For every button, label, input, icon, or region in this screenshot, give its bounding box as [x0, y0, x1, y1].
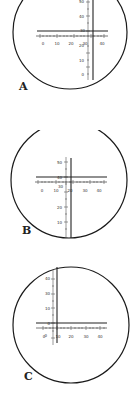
svg-text:20: 20	[57, 205, 63, 210]
svg-text:50: 50	[57, 160, 63, 165]
svg-text:0: 0	[81, 72, 84, 77]
reticle-a: 010203040 50403020100	[0, 0, 138, 130]
reticle-b: 010203040 5040302010	[0, 130, 138, 265]
svg-text:50: 50	[79, 0, 85, 4]
reticle-c: 010203040 40301000	[0, 265, 138, 397]
reticle-circle	[11, 130, 127, 238]
svg-text:40: 40	[97, 334, 103, 339]
svg-text:40: 40	[45, 276, 51, 281]
svg-text:30: 30	[58, 184, 64, 189]
svg-text:0: 0	[44, 333, 47, 338]
panel-label-b: B	[22, 224, 31, 237]
svg-text:0: 0	[41, 188, 44, 193]
svg-text:10: 10	[45, 306, 51, 311]
svg-text:30: 30	[45, 291, 51, 296]
svg-text:40: 40	[96, 188, 102, 193]
svg-text:20: 20	[79, 43, 85, 48]
svg-text:10: 10	[79, 58, 85, 63]
svg-text:40: 40	[79, 14, 85, 19]
svg-text:20: 20	[68, 41, 74, 46]
svg-text:20: 20	[68, 334, 74, 339]
reticle-circle	[13, 267, 129, 383]
svg-text:0: 0	[42, 41, 45, 46]
panel-label-c: C	[24, 370, 33, 383]
svg-text:10: 10	[55, 334, 61, 339]
panel-label-a: A	[19, 80, 28, 93]
svg-text:10: 10	[54, 41, 60, 46]
panel-c: 010203040 40301000 C	[0, 265, 138, 397]
svg-text:10: 10	[57, 220, 63, 225]
svg-text:20: 20	[67, 188, 73, 193]
svg-text:30: 30	[82, 188, 88, 193]
panel-a: 010203040 50403020100 A	[0, 0, 138, 130]
panel-b: 010203040 5040302010 B	[0, 130, 138, 265]
svg-text:30: 30	[83, 334, 89, 339]
svg-text:40: 40	[99, 41, 105, 46]
